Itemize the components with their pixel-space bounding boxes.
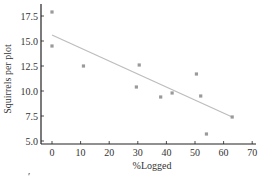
y-tick-label: 17.5	[21, 11, 39, 22]
data-point	[199, 94, 202, 97]
y-tick-label: 7.5	[26, 111, 39, 122]
data-point	[138, 63, 141, 66]
axes: 5.07.510.012.515.017.5010203040506070	[21, 4, 258, 158]
data-point	[50, 44, 53, 47]
regression-line	[52, 35, 232, 117]
data-point	[195, 72, 198, 75]
y-tick-label: 15.0	[21, 36, 39, 47]
scatter-chart: 5.07.510.012.515.017.5010203040506070 %L…	[0, 0, 258, 182]
data-point	[50, 10, 53, 13]
x-tick-label: 0	[50, 147, 55, 158]
data-point	[135, 85, 138, 88]
x-tick-label: 60	[219, 147, 229, 158]
stray-mark: ′	[28, 171, 30, 182]
x-tick-label: 50	[190, 147, 200, 158]
data-point	[171, 91, 174, 94]
y-tick-label: 10.0	[21, 86, 39, 97]
y-axis-title: Squirrels per plot	[2, 44, 13, 114]
data-point	[205, 132, 208, 135]
x-tick-label: 30	[133, 147, 143, 158]
y-tick-label: 12.5	[21, 61, 39, 72]
x-tick-label: 40	[161, 147, 171, 158]
x-tick-label: 10	[76, 147, 86, 158]
x-axis-title: %Logged	[133, 160, 172, 171]
x-tick-label: 70	[247, 147, 257, 158]
data-point	[231, 115, 234, 118]
data-point	[82, 64, 85, 67]
plot-area	[50, 10, 233, 135]
data-point	[159, 95, 162, 98]
y-tick-label: 5.0	[26, 136, 39, 147]
x-tick-label: 20	[104, 147, 114, 158]
chart-canvas: 5.07.510.012.515.017.5010203040506070 %L…	[0, 0, 258, 182]
